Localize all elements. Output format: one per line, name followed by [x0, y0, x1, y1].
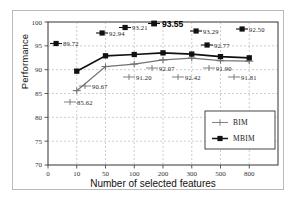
data-label-mbim-3: 93.55: [162, 19, 184, 29]
data-label-mbim-5: 92.77: [214, 42, 230, 49]
x-tick-label-50: 50: [102, 170, 110, 178]
data-label-bim-0: 85.62: [77, 99, 93, 106]
data-label-mbim-6: 92.50: [249, 26, 265, 33]
x-tick-label-300: 300: [187, 170, 198, 178]
y-tick-label-95: 95: [35, 42, 43, 50]
chart-figure: Performance Number of selected features: [0, 0, 296, 206]
chart-legend[interactable]: BIM MBIM: [205, 111, 275, 149]
y-axis-ticks: 100 95 90 85 80 75 70: [32, 19, 49, 170]
data-label-bim-1: 90.67: [92, 83, 108, 90]
data-label-mbim-0: 89.72: [63, 40, 79, 47]
x-tick-label-100: 100: [129, 170, 140, 178]
y-tick-label-100: 100: [32, 19, 43, 27]
legend-label-bim: BIM: [233, 118, 248, 127]
x-axis-ticks: 0 10 50 100 200 300 500 800: [46, 165, 255, 178]
data-label-bim-6: 91.81: [241, 74, 257, 81]
x-tick-label-0: 0: [46, 170, 50, 178]
data-label-mbim-2: 93.21: [132, 24, 148, 31]
data-label-bim-2: 91.20: [136, 74, 152, 81]
y-tick-label-70: 70: [35, 161, 43, 169]
data-label-mbim-1: 92.94: [109, 30, 125, 37]
y-tick-label-75: 75: [35, 138, 43, 146]
data-label-bim-5: 91.90: [216, 65, 232, 72]
data-label-bim-3: 92.07: [159, 65, 175, 72]
chart-canvas: 100 95 90 85 80 75 70 0 10 50 100 200 30…: [0, 0, 296, 206]
data-label-mbim-4: 93.29: [203, 28, 219, 35]
y-tick-label-85: 85: [35, 90, 43, 98]
y-tick-label-80: 80: [35, 114, 43, 122]
legend-label-mbim: MBIM: [233, 134, 255, 143]
x-tick-label-200: 200: [158, 170, 169, 178]
y-tick-label-90: 90: [35, 66, 43, 74]
x-tick-label-10: 10: [73, 170, 81, 178]
x-tick-label-500: 500: [215, 170, 226, 178]
data-label-bim-4: 92.42: [185, 74, 201, 81]
x-tick-label-800: 800: [244, 170, 255, 178]
